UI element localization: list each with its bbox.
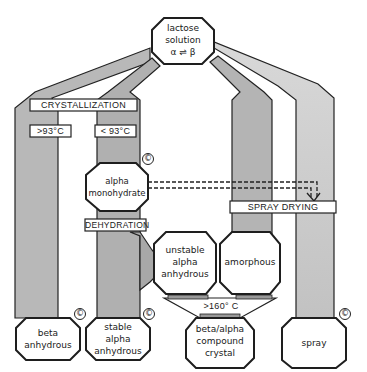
- beta-anhydrous-line2: anhydrous: [16, 339, 80, 351]
- beta-anhydrous-label: beta anhydrous: [16, 327, 80, 351]
- commercial-mark-icon: ©: [74, 308, 86, 320]
- above160-label: >160° C: [190, 301, 252, 312]
- amorphous-label: amorphous: [220, 256, 280, 268]
- unstable-alpha-label: unstable alpha anhydrous: [154, 244, 216, 280]
- spray-drying-label: SPRAY DRYING: [230, 202, 336, 213]
- unstable-alpha-line3: anhydrous: [154, 268, 216, 280]
- source-line1: lactose: [152, 22, 214, 34]
- source-label: lactose solution α ⇌ β: [152, 22, 214, 58]
- beta-anhydrous-line1: beta: [16, 327, 80, 339]
- alpha-monohydrate-line2: monohydrate: [86, 187, 148, 199]
- stable-alpha-line2: alpha: [86, 333, 150, 345]
- stable-alpha-label: stable alpha anhydrous: [86, 321, 150, 357]
- commercial-mark-icon: ©: [339, 308, 351, 320]
- spray-label: spray: [282, 337, 346, 349]
- band-amorphous: [210, 56, 272, 258]
- compound-line3: crystal: [186, 347, 254, 359]
- alpha-monohydrate-label: alpha monohydrate: [86, 175, 148, 199]
- alpha-monohydrate-line1: alpha: [86, 175, 148, 187]
- stable-alpha-line1: stable: [86, 321, 150, 333]
- compound-line2: compound: [186, 335, 254, 347]
- dehydration-label: DEHYDRATION: [85, 220, 146, 231]
- source-equilibrium: α ⇌ β: [152, 46, 214, 58]
- source-line2: solution: [152, 34, 214, 46]
- compound-line1: beta/alpha: [186, 323, 254, 335]
- below93-label: < 93°C: [95, 126, 136, 137]
- stable-alpha-line3: anhydrous: [86, 345, 150, 357]
- commercial-mark-icon: ©: [142, 153, 154, 165]
- unstable-alpha-line1: unstable: [154, 244, 216, 256]
- unstable-alpha-line2: alpha: [154, 256, 216, 268]
- commercial-mark-icon: ©: [143, 308, 155, 320]
- crystallization-label: CRYSTALLIZATION: [30, 100, 137, 111]
- above93-label: >93°C: [30, 126, 71, 137]
- beta-alpha-compound-label: beta/alpha compound crystal: [186, 323, 254, 359]
